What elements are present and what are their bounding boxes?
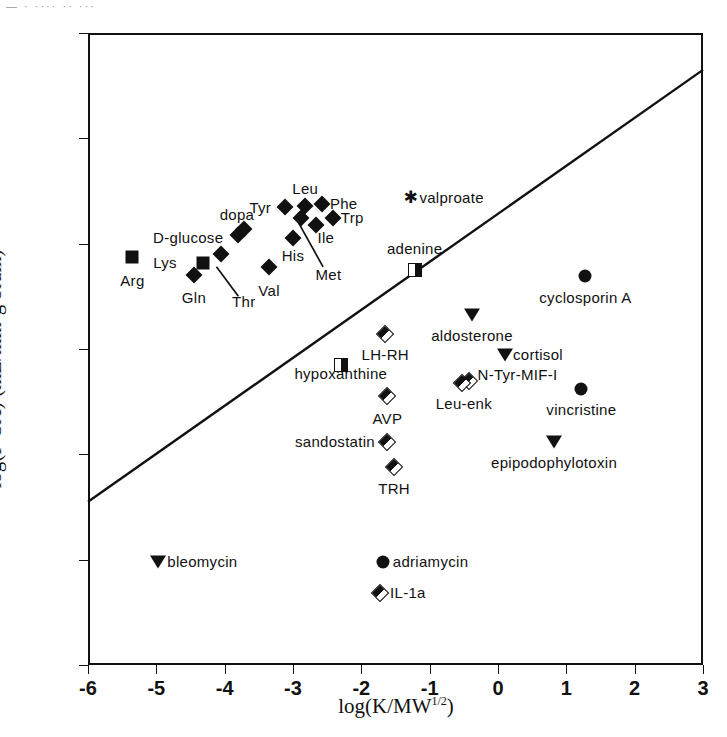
data-point-marker-halfdiamond	[371, 584, 389, 602]
data-point-marker-square	[196, 256, 209, 269]
x-tick-label: 3	[683, 677, 723, 700]
clipped-header-artifact: — · ···· ·· ···	[6, 0, 126, 14]
y-tick	[79, 454, 88, 455]
data-point-label: epipodophylotoxin	[491, 454, 617, 471]
x-tick	[156, 665, 157, 674]
x-tick	[566, 665, 567, 674]
y-tick	[79, 349, 88, 350]
data-point-label: Leu	[292, 180, 318, 197]
data-point-marker-tri-down	[150, 555, 166, 568]
x-axis-title: log(K/MW1/2)	[338, 694, 454, 719]
data-point-label: IL-1a	[390, 584, 426, 601]
data-point-marker-diamond	[313, 195, 330, 212]
data-point-label: Trp	[341, 209, 364, 226]
data-point-label: cortisol	[513, 346, 563, 363]
data-point-label: Thr	[232, 293, 255, 310]
x-axis-title-main: log(K/MW	[338, 694, 431, 718]
y-tick	[79, 138, 88, 139]
data-point-label: LH-RH	[362, 346, 409, 363]
y-tick	[79, 244, 88, 245]
y-tick	[79, 665, 88, 666]
data-point-label: aldosterone	[431, 327, 513, 344]
x-tick	[635, 665, 636, 674]
data-point-marker-diamond	[324, 210, 341, 227]
data-point-label: hypoxanthine	[294, 365, 387, 382]
x-tick-label: -4	[205, 677, 245, 700]
data-point-marker-halfdiamond	[378, 432, 396, 450]
data-point-marker-halfdiamond	[378, 387, 396, 405]
x-axis-title-tail: )	[447, 694, 454, 718]
data-point-label: Gln	[182, 289, 206, 306]
data-point-marker-tri-down	[497, 349, 513, 362]
data-point-label: Lys	[153, 254, 177, 271]
data-point-marker-halfdiamond	[385, 458, 403, 476]
data-point-marker-square	[126, 251, 139, 264]
data-point-label: TRH	[378, 480, 410, 497]
data-points: ✱	[88, 33, 703, 61]
data-point-label: N-Tyr-MIF-I	[478, 366, 558, 383]
x-tick	[430, 665, 431, 674]
data-point-marker-circle	[377, 555, 390, 568]
data-point-marker-halfdiamond	[376, 325, 394, 343]
data-point-marker-diamond	[261, 258, 278, 275]
data-point-label: AVP	[372, 410, 402, 427]
data-point-label: Leu-enk	[436, 395, 492, 412]
x-tick-label: -3	[273, 677, 313, 700]
x-tick-label: 1	[546, 677, 586, 700]
data-point-marker-diamond	[213, 246, 230, 263]
x-axis-title-exponent: 1/2	[431, 694, 446, 708]
data-point-label: vincristine	[546, 401, 616, 418]
data-point-label: His	[282, 247, 305, 264]
data-point-marker-halfsquare	[408, 263, 422, 277]
x-tick	[88, 665, 89, 674]
data-point-marker-star: ✱	[404, 191, 418, 205]
x-tick	[703, 665, 704, 674]
data-point-label: Val	[258, 282, 279, 299]
x-tick	[361, 665, 362, 674]
data-point-label: Met	[316, 266, 342, 283]
data-point-label: Tyr	[249, 199, 271, 216]
data-point-label: sandostatin	[295, 433, 375, 450]
data-point-label: valproate	[419, 189, 483, 206]
data-point-marker-tri-down	[464, 309, 480, 322]
data-point-label: D-glucose	[153, 229, 223, 246]
data-point-label: adriamycin	[393, 553, 469, 570]
x-tick-label: 0	[478, 677, 518, 700]
x-tick-label: -5	[136, 677, 176, 700]
plot-area: 10-1-2-3-4-5 -6-5-4-3-2-10123 ✱ ArgLysGl…	[88, 33, 703, 665]
data-point-label: cyclosporin A	[539, 289, 631, 306]
data-point-marker-diamond	[285, 230, 302, 247]
data-point-label: Arg	[120, 272, 144, 289]
x-tick	[293, 665, 294, 674]
x-tick	[498, 665, 499, 674]
x-tick-label: 2	[615, 677, 655, 700]
y-axis-title: log(P·SA) (mL/min·g brain)	[0, 249, 7, 488]
data-point-label: bleomycin	[167, 553, 237, 570]
y-tick	[79, 33, 88, 34]
x-tick-label: -6	[68, 677, 108, 700]
data-point-marker-circle	[579, 270, 592, 283]
data-point-label: Ile	[317, 229, 334, 246]
data-point-marker-diamond	[276, 198, 293, 215]
data-point-marker-tri-down	[546, 435, 562, 448]
scatter-plot-figure: — · ···· ·· ··· 10-1-2-3-4-5 -6-5-4-3-2-…	[0, 0, 727, 737]
x-tick	[225, 665, 226, 674]
y-tick	[79, 560, 88, 561]
data-point-label: adenine	[387, 240, 443, 257]
regression-line	[88, 70, 703, 502]
data-point-marker-circle	[575, 383, 588, 396]
data-point-marker-diamond	[185, 267, 202, 284]
